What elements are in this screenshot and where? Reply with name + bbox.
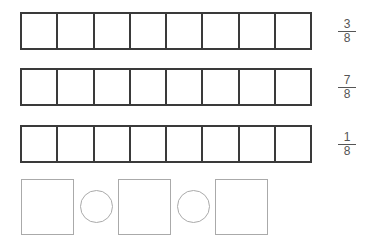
bar-cell [167,70,203,104]
bar-cell [276,70,310,104]
bar-cell [240,70,276,104]
bar-cell [95,70,131,104]
denominator: 8 [338,32,356,44]
bar-cell [95,14,131,48]
fraction-bar-2 [20,68,312,106]
denominator: 8 [338,145,356,157]
bar-cell [22,14,58,48]
bar-cell [131,14,167,48]
bar-cell [203,70,239,104]
bar-cell [167,127,203,161]
fraction-bar-1 [20,12,312,50]
bar-cell [22,70,58,104]
answer-box-3[interactable] [215,179,268,235]
comparison-circle-1[interactable] [80,190,113,223]
answer-box-1[interactable] [21,179,74,235]
fraction-label-2: 7 8 [338,75,356,100]
fraction-label-1: 3 8 [338,19,356,44]
bar-cell [203,14,239,48]
bar-cell [22,127,58,161]
bar-cell [131,70,167,104]
bar-cell [58,127,94,161]
bar-cell [58,70,94,104]
denominator: 8 [338,88,356,100]
comparison-circle-2[interactable] [177,190,210,223]
bar-cell [95,127,131,161]
bar-cell [240,14,276,48]
bar-cell [131,127,167,161]
bar-cell [203,127,239,161]
bar-cell [240,127,276,161]
bar-cell [58,14,94,48]
bar-cell [167,14,203,48]
bar-cell [276,14,310,48]
fraction-bar-3 [20,125,312,163]
answer-box-2[interactable] [118,179,171,235]
bar-cell [276,127,310,161]
fraction-label-3: 1 8 [338,132,356,157]
